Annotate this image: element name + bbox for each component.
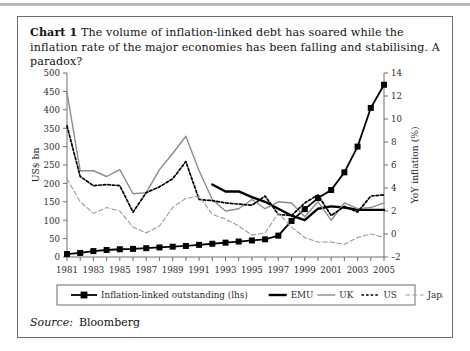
y-tick-label-right: –2: [391, 252, 401, 262]
chart-svg: 050100150200250300350400450500–202468101…: [29, 63, 443, 311]
chart-plot-area: 050100150200250300350400450500–202468101…: [29, 63, 443, 311]
x-tick-label: 2003: [347, 265, 369, 275]
series-marker: [381, 82, 387, 88]
series-marker: [90, 248, 96, 254]
x-tick-label: 1993: [215, 265, 237, 275]
x-tick-label: 1981: [56, 265, 78, 275]
series-marker: [130, 246, 136, 252]
y-tick-label-right: 2: [391, 206, 396, 216]
series-marker: [262, 236, 268, 242]
x-tick-label: 1987: [135, 265, 157, 275]
series-marker: [302, 206, 308, 212]
x-tick-label: 1989: [162, 265, 184, 275]
series-marker: [355, 144, 361, 150]
chart-panel: Chart 1 The volume of inflation-linked d…: [17, 16, 453, 338]
x-tick-label: 1991: [188, 265, 210, 275]
y-axis-title-left: US$ bn: [30, 148, 41, 183]
series-marker: [236, 239, 242, 245]
x-tick-label: 2001: [320, 265, 342, 275]
series-line-2: [67, 93, 384, 221]
y-tick-label-left: 450: [44, 87, 60, 97]
series-marker: [117, 246, 123, 252]
y-tick-label-right: 14: [391, 68, 402, 78]
legend-label-0: Inflation-linked outstanding (lhs): [101, 290, 248, 300]
y-tick-label-right: 4: [391, 183, 397, 193]
y-tick-label-left: 200: [44, 179, 60, 189]
series-marker: [328, 187, 334, 193]
series-marker: [223, 240, 229, 246]
legend-label-3: US: [383, 290, 396, 300]
x-tick-label: 1995: [241, 265, 263, 275]
x-tick-label: 2005: [373, 265, 395, 275]
y-tick-label-right: 10: [391, 114, 402, 124]
source-value: Bloomberg: [79, 316, 140, 329]
figure-caption-text: The volume of inflation-linked debt has …: [30, 26, 440, 68]
legend-label-2: UK: [339, 290, 353, 300]
y-tick-label-left: 300: [44, 142, 60, 152]
figure-label: Chart 1: [30, 26, 77, 39]
series-marker: [143, 245, 149, 251]
y-tick-label-left: 400: [44, 105, 60, 115]
page-rule: [0, 3, 470, 6]
y-axis-title-right: YoY inflation (%): [409, 126, 420, 204]
x-tick-label: 1999: [294, 265, 316, 275]
series-marker: [183, 243, 189, 249]
x-tick-label: 1985: [109, 265, 131, 275]
series-marker: [209, 241, 215, 247]
y-tick-label-left: 100: [44, 216, 60, 226]
y-tick-label-left: 350: [44, 124, 60, 134]
series-marker: [341, 169, 347, 175]
y-tick-label-left: 250: [44, 160, 60, 170]
series-marker: [104, 247, 110, 253]
series-marker: [196, 242, 202, 248]
y-tick-label-right: 0: [391, 229, 396, 239]
series-marker: [170, 244, 176, 250]
x-tick-label: 1983: [82, 265, 104, 275]
y-tick-label-right: 8: [391, 137, 396, 147]
y-tick-label-right: 6: [391, 160, 396, 170]
y-tick-label-left: 150: [44, 197, 60, 207]
x-tick-label: 1997: [267, 265, 289, 275]
series-marker: [77, 250, 83, 256]
y-tick-label-right: 12: [391, 91, 402, 101]
series-marker: [289, 218, 295, 224]
series-marker: [64, 251, 70, 257]
source-line: Source:Bloomberg: [30, 316, 140, 329]
y-tick-label-left: 0: [55, 252, 60, 262]
series-marker: [156, 244, 162, 250]
series-line-3: [67, 126, 384, 216]
series-marker: [368, 105, 374, 111]
y-tick-label-left: 50: [49, 234, 60, 244]
y-tick-label-left: 500: [44, 68, 60, 78]
legend-marker-0: [81, 292, 88, 299]
legend-label-1: EMU: [291, 290, 314, 300]
chart-figure-root: Chart 1 The volume of inflation-linked d…: [0, 0, 470, 351]
series-marker: [249, 237, 255, 243]
legend-label-4: Japan: [427, 290, 443, 300]
series-marker: [275, 233, 281, 239]
source-label: Source:: [30, 316, 73, 329]
series-line-0: [67, 85, 384, 254]
